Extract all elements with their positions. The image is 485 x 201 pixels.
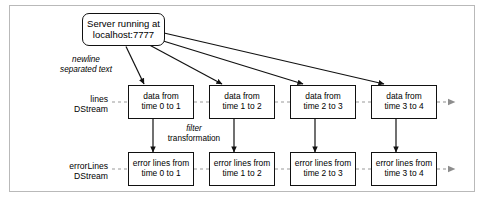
errorlines-cell-2-line2: time 2 to 3 [303, 169, 342, 179]
lines-row-label-line2: DStream [28, 104, 108, 114]
lines-cell-1[interactable]: data from time 1 to 2 [209, 85, 275, 119]
errorlines-cell-2[interactable]: error lines from time 2 to 3 [290, 152, 356, 186]
lines-cell-3-line2: time 3 to 4 [384, 102, 423, 112]
lines-to-errorlines-edge-label: filter transformation [156, 124, 232, 144]
errorlines-cell-1[interactable]: error lines from time 1 to 2 [209, 152, 275, 186]
edge-label-italic: newline [72, 55, 100, 64]
errorlines-row-label-line2: DStream [20, 171, 108, 181]
lines-row-label-line1: lines [28, 94, 108, 104]
server-node-line2: localhost:7777 [93, 30, 154, 41]
server-node[interactable]: Server running at localhost:7777 [82, 13, 165, 46]
source-to-lines-edge-label: newline separated text [46, 55, 126, 75]
errorlines-row-label-line1: errorLines [20, 161, 108, 171]
lines-cell-0[interactable]: data from time 0 to 1 [128, 85, 194, 119]
lines-cell-0-line2: time 0 to 1 [141, 102, 180, 112]
lines-cell-1-line2: time 1 to 2 [222, 102, 261, 112]
errorlines-cell-3[interactable]: error lines from time 3 to 4 [371, 152, 437, 186]
lines-cell-3[interactable]: data from time 3 to 4 [371, 85, 437, 119]
errorlines-cell-0[interactable]: error lines from time 0 to 1 [128, 152, 194, 186]
errorlines-row-label: errorLines DStream [20, 161, 108, 182]
edge-label-plain: separated text [60, 65, 112, 74]
server-node-line1: Server running at [87, 19, 160, 30]
errorlines-cell-1-line2: time 1 to 2 [222, 169, 261, 179]
dstream-flow-figure: Server running at localhost:7777 newline… [0, 0, 485, 201]
row-continuation-arrows [437, 102, 455, 169]
lines-cell-2-line2: time 2 to 3 [303, 102, 342, 112]
errorlines-cell-3-line2: time 3 to 4 [384, 169, 423, 179]
filter-label-italic: filter [186, 124, 201, 133]
lines-cell-2[interactable]: data from time 2 to 3 [290, 85, 356, 119]
filter-label-plain: transformation [168, 134, 220, 143]
lines-row-label: lines DStream [28, 94, 108, 115]
errorlines-cell-0-line2: time 0 to 1 [141, 169, 180, 179]
